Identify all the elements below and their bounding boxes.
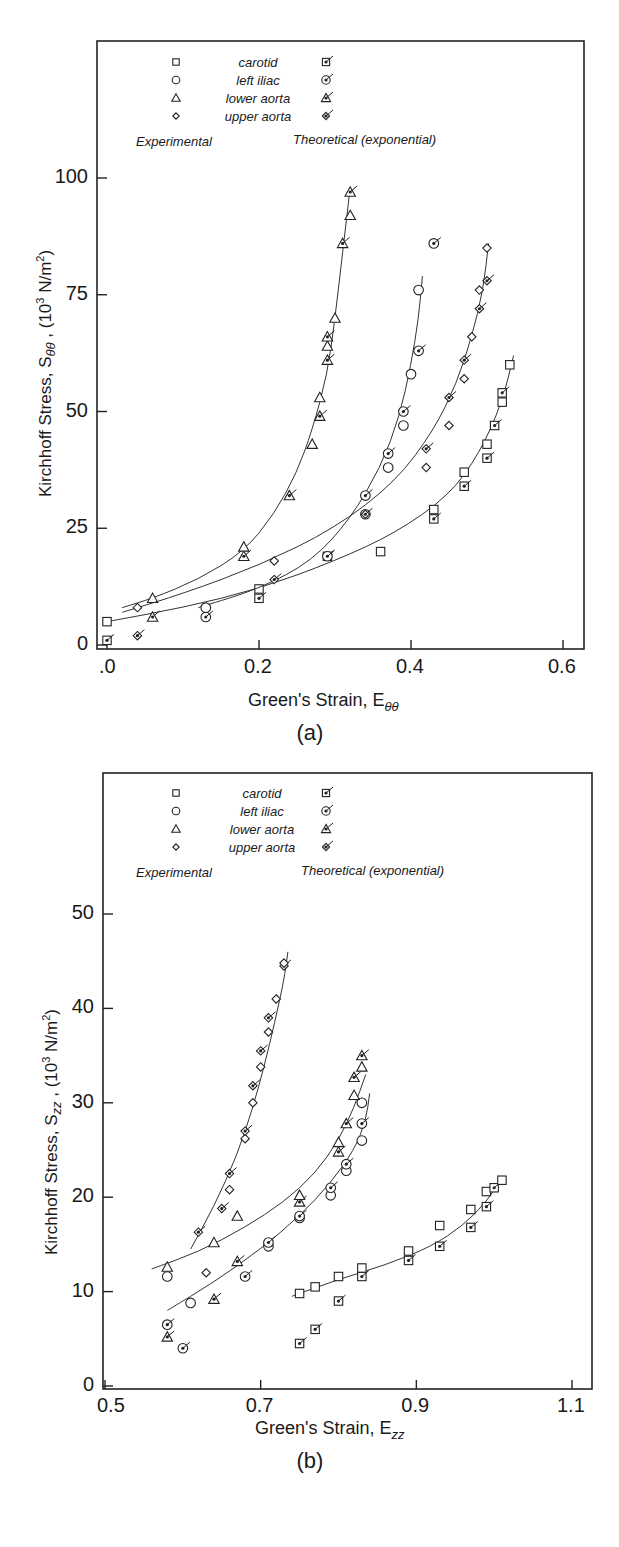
square-marker-icon [173, 790, 179, 796]
triangle-marker-icon [349, 1090, 359, 1099]
square-marker-icon [467, 1205, 475, 1213]
diamond-marker-icon [202, 1269, 210, 1277]
diamond-marker-icon [173, 844, 179, 850]
y-tick-label: 40 [72, 995, 94, 1018]
panel-label-b: (b) [250, 1448, 370, 1474]
circle-marker-icon [357, 1136, 367, 1146]
square-marker-icon [435, 1221, 443, 1229]
legend-experimental-heading: Experimental [136, 865, 212, 880]
x-tick-label: 1.1 [557, 1394, 585, 1417]
triangle-marker-icon [232, 1211, 242, 1220]
x-tick-label: 0.5 [97, 1394, 125, 1417]
series-left-iliac [162, 1093, 369, 1353]
series-upper-aorta [191, 952, 291, 1277]
y-tick-label: 50 [72, 901, 94, 924]
y-tick-label: 20 [72, 1184, 94, 1207]
square-marker-icon [404, 1247, 412, 1255]
diamond-marker-icon [249, 1099, 257, 1107]
square-marker-icon [498, 1176, 506, 1184]
legend-theoretical-heading: Theoretical (exponential) [301, 863, 444, 878]
square-marker-icon [482, 1187, 490, 1195]
y-tick-label: 30 [72, 1090, 94, 1113]
chart-b-plot [0, 0, 619, 1547]
triangle-marker-icon [357, 1062, 367, 1071]
legend-entry-left-iliac: left iliac [222, 804, 302, 819]
square-marker-icon [295, 1289, 303, 1297]
diamond-marker-icon [225, 1185, 233, 1193]
x-tick-label: 0.7 [246, 1394, 274, 1417]
legend-entry-upper-aorta: upper aorta [222, 840, 302, 855]
legend-entry-carotid: carotid [222, 786, 302, 801]
y-tick-label: 10 [72, 1279, 94, 1302]
square-marker-icon [311, 1283, 319, 1291]
series-carotid [292, 1176, 506, 1348]
circle-marker-icon [172, 807, 180, 815]
triangle-marker-icon [172, 825, 180, 832]
legend-entry-lower-aorta: lower aorta [222, 822, 302, 837]
triangle-marker-icon [162, 1262, 172, 1271]
square-marker-icon [334, 1272, 342, 1280]
circle-marker-icon [162, 1272, 172, 1282]
circle-marker-icon [186, 1298, 196, 1308]
figure-b: Kirchhoff Stress, Szz , (103 N/m2) Green… [0, 0, 619, 1547]
y-tick-label: 0 [83, 1373, 94, 1396]
x-tick-label: 0.9 [401, 1394, 429, 1417]
square-marker-icon [358, 1264, 366, 1272]
triangle-marker-icon [333, 1137, 343, 1146]
chart-b-y-axis-label: Kirchhoff Stress, Szz , (103 N/m2) [40, 1009, 64, 1255]
chart-b-x-axis-label: Green's Strain, Ezz [255, 1418, 405, 1442]
